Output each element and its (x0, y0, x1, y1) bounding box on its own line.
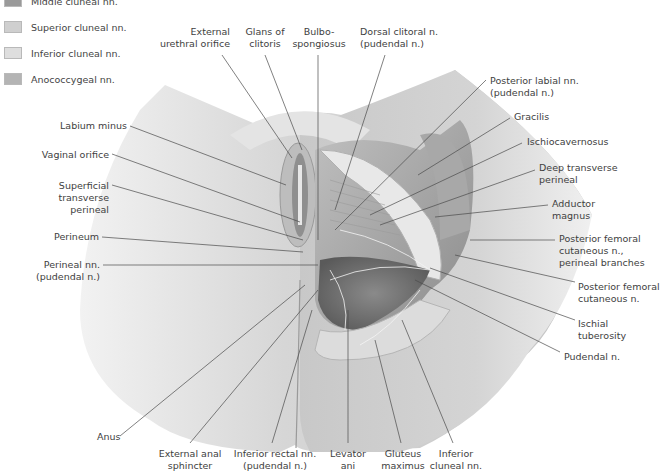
legend-label: Anococcygeal nn. (31, 74, 115, 85)
label-line: Ischial (578, 318, 626, 330)
legend-label: Superior cluneal nn. (31, 22, 127, 33)
label-line: sphincter (150, 460, 230, 472)
label-line: perineal (10, 204, 109, 216)
label-dorsal-clitoral-n: Dorsal clitoral n. (pudendal n.) (360, 26, 438, 50)
label-line: Glans of (240, 26, 290, 38)
label-line: perineal (539, 174, 618, 186)
label-line: Adductor (552, 198, 595, 210)
label-perineal-nn: Perineal nn. (pudendal n.) (10, 259, 100, 283)
label-ischiocavernosus: Ischiocavernosus (527, 136, 608, 148)
label-line: External (150, 26, 230, 38)
label-line: Bulbo- (288, 26, 350, 38)
label-line: Deep transverse (539, 162, 618, 174)
legend-item-superior-cluneal: Superior cluneal nn. (4, 20, 127, 34)
label-superficial-transverse-perineal: Superficial transverse perineal (10, 180, 109, 216)
label-line: Posterior femoral (578, 281, 660, 293)
label-posterior-femoral-cutaneous-perineal-branches: Posterior femoral cutaneous n., perineal… (559, 233, 645, 269)
label-line: (pudendal n.) (10, 271, 100, 283)
label-posterior-labial-nn: Posterior labial nn. (pudendal n.) (490, 75, 579, 99)
label-posterior-femoral-cutaneous-n: Posterior femoral cutaneous n. (578, 281, 660, 305)
label-line: Ischiocavernosus (527, 136, 608, 148)
label-bulbospongiosus: Bulbo- spongiosus (288, 26, 350, 50)
label-line: Gluteus (378, 448, 428, 460)
label-line: clitoris (240, 38, 290, 50)
legend-item-inferior-cluneal: Inferior cluneal nn. (4, 46, 121, 60)
label-labium-minus: Labium minus (10, 120, 127, 132)
label-line: Levator (325, 448, 371, 460)
label-line: maximus (378, 460, 428, 472)
label-glans-of-clitoris: Glans of clitoris (240, 26, 290, 50)
label-line: ani (325, 460, 371, 472)
label-line: External anal (150, 448, 230, 460)
label-line: spongiosus (288, 38, 350, 50)
label-line: Posterior labial nn. (490, 75, 579, 87)
label-line: cutaneous n., (559, 245, 645, 257)
label-line: magnus (552, 210, 595, 222)
swatch-icon (4, 21, 22, 33)
label-line: tuberosity (578, 330, 626, 342)
legend-label: Inferior cluneal nn. (31, 48, 121, 59)
label-line: Perineal nn. (10, 259, 100, 271)
legend-item-anococcygeal: Anococcygeal nn. (4, 72, 115, 86)
label-perineum: Perineum (10, 231, 99, 243)
label-line: Labium minus (10, 120, 127, 132)
swatch-icon (4, 0, 22, 7)
label-line: transverse (10, 192, 109, 204)
label-anus: Anus (97, 431, 121, 443)
label-deep-transverse-perineal: Deep transverse perineal (539, 162, 618, 186)
label-line: Inferior rectal nn. (225, 448, 325, 460)
label-line: Vaginal orifice (10, 149, 109, 161)
swatch-icon (4, 73, 22, 85)
legend-item-middle-cluneal: Middle cluneal nn. (4, 0, 118, 8)
label-gracilis: Gracilis (514, 111, 549, 123)
label-external-anal-sphincter: External anal sphincter (150, 448, 230, 472)
label-inferior-rectal-nn: Inferior rectal nn. (pudendal n.) (225, 448, 325, 472)
label-line: (pudendal n.) (225, 460, 325, 472)
label-vaginal-orifice: Vaginal orifice (10, 149, 109, 161)
label-line: Superficial (10, 180, 109, 192)
label-ischial-tuberosity: Ischial tuberosity (578, 318, 626, 342)
label-line: perineal branches (559, 257, 645, 269)
label-line: (pudendal n.) (360, 38, 438, 50)
label-line: urethral orifice (150, 38, 230, 50)
label-pudendal-n: Pudendal n. (564, 351, 620, 363)
legend-label: Middle cluneal nn. (31, 0, 118, 7)
label-line: cutaneous n. (578, 293, 660, 305)
label-levator-ani: Levator ani (325, 448, 371, 472)
label-line: cluneal nn. (424, 460, 488, 472)
label-line: Dorsal clitoral n. (360, 26, 438, 38)
label-adductor-magnus: Adductor magnus (552, 198, 595, 222)
label-line: Inferior (424, 448, 488, 460)
label-external-urethral-orifice: External urethral orifice (150, 26, 230, 50)
vulva (280, 143, 316, 247)
label-gluteus-maximus: Gluteus maximus (378, 448, 428, 472)
label-line: Gracilis (514, 111, 549, 123)
label-line: (pudendal n.) (490, 87, 579, 99)
label-line: Anus (97, 431, 121, 443)
label-line: Perineum (10, 231, 99, 243)
label-inferior-cluneal-nn: Inferior cluneal nn. (424, 448, 488, 472)
swatch-icon (4, 47, 22, 59)
label-line: Pudendal n. (564, 351, 620, 363)
label-line: Posterior femoral (559, 233, 645, 245)
